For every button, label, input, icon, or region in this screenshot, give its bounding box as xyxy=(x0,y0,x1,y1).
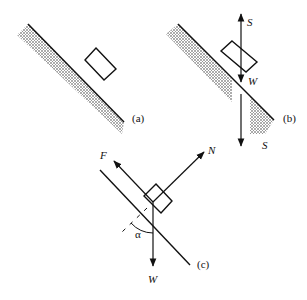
incline-surface xyxy=(178,24,274,120)
force-label-s-down: S xyxy=(262,139,268,151)
block xyxy=(221,41,257,72)
incline-surface xyxy=(28,24,124,122)
block xyxy=(144,184,172,213)
panel-c: α F N W (c) xyxy=(99,144,216,285)
force-arrow-n xyxy=(153,152,204,202)
force-label-n: N xyxy=(207,144,216,156)
panel-c-label: (c) xyxy=(197,258,210,271)
ground-hatching xyxy=(17,24,124,134)
panel-b-label: (b) xyxy=(283,112,296,125)
incline-surface xyxy=(100,170,190,265)
ground-hatching-left xyxy=(166,24,232,102)
force-label-w: W xyxy=(148,273,158,285)
force-label-w: W xyxy=(248,75,258,87)
force-arrow-f xyxy=(114,161,153,202)
force-label-f: F xyxy=(99,149,107,161)
panel-a: (a) xyxy=(17,24,145,134)
block xyxy=(85,48,116,80)
panel-a-label: (a) xyxy=(132,112,145,125)
angle-alpha-label: α xyxy=(135,228,141,240)
incline-diagram: (a) S W S (b) α F N W (c) xyxy=(0,0,307,300)
force-label-s-up: S xyxy=(247,16,253,28)
panel-b: S W S (b) xyxy=(166,14,296,151)
